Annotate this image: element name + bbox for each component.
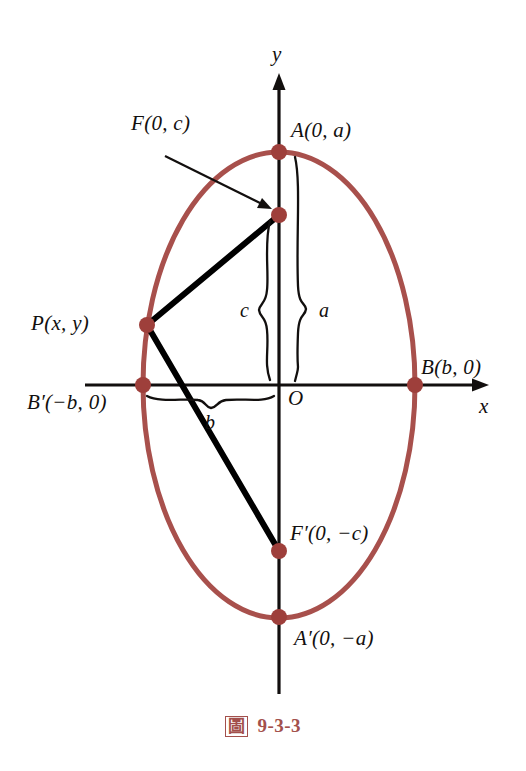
point-Bprime [135, 377, 151, 393]
point-label-B: B(b, 0) [421, 357, 481, 378]
figure-container: y x O F(0, c) A(0, a) P(x, y) B′(−b, 0) … [0, 0, 526, 771]
figure-caption: 圖9-3-3 [0, 712, 526, 737]
ellipse-diagram [0, 0, 526, 771]
brace-b [147, 396, 274, 408]
point-B [407, 377, 423, 393]
point-label-P: P(x, y) [31, 313, 89, 334]
point-label-Aprime: A′(0, −a) [294, 628, 374, 649]
point-P [139, 317, 155, 333]
measure-label-a: a [319, 300, 329, 320]
point-label-A: A(0, a) [291, 120, 351, 141]
point-A [271, 144, 287, 160]
focus-callout-arrow [165, 156, 272, 209]
point-label-Fprime: F′(0, −c) [290, 523, 369, 544]
point-F [271, 207, 287, 223]
measure-label-c: c [240, 300, 249, 320]
measure-label-b: b [205, 412, 215, 432]
origin-label: O [288, 388, 303, 409]
point-Fprime [271, 543, 287, 559]
figure-caption-mark: 圖 [225, 716, 249, 737]
y-axis-label: y [272, 44, 281, 65]
point-label-Bprime: B′(−b, 0) [27, 392, 107, 413]
point-Aprime [271, 609, 287, 625]
x-axis-label: x [479, 396, 488, 417]
brace-c [259, 221, 270, 380]
figure-caption-number: 9-3-3 [257, 715, 301, 736]
focal-chords [147, 215, 279, 551]
brace-a [295, 157, 306, 381]
point-label-F: F(0, c) [131, 113, 190, 134]
